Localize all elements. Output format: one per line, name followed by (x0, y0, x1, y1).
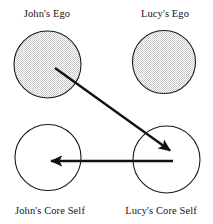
circle-johns-ego (14, 31, 81, 98)
circle-lucys-core-self (133, 126, 200, 193)
label-johns-core-self: John's Core Self (2, 205, 98, 217)
label-lucys-ego: Lucy's Ego (122, 8, 208, 20)
circle-lucys-ego (133, 31, 196, 94)
label-lucys-core-self: Lucy's Core Self (112, 205, 210, 217)
label-johns-ego: John's Ego (4, 8, 90, 20)
diagram-canvas: John's Ego Lucy's Ego John's Core Self L… (0, 0, 213, 224)
circle-johns-core-self (15, 125, 81, 191)
diagram-graphics (0, 0, 213, 224)
